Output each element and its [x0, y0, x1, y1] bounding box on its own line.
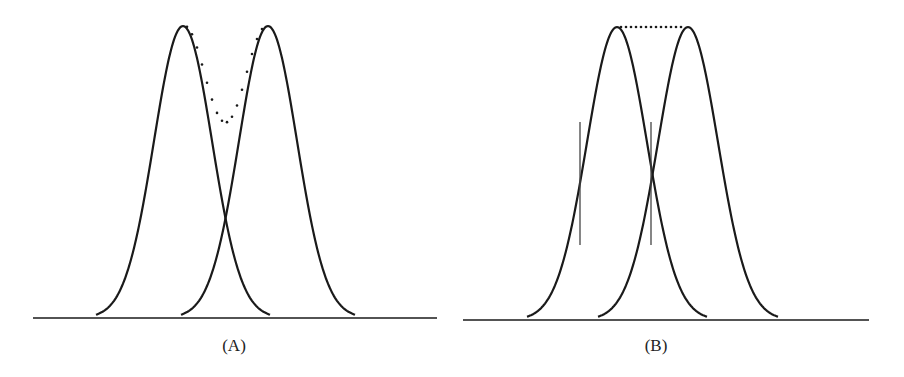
- panel-b-sum-dot: [675, 26, 678, 29]
- panel-a-sum-dot: [246, 70, 249, 73]
- panel-b-sum-dot: [650, 26, 653, 29]
- panel-a-sum-dot: [251, 53, 254, 56]
- panel-b-sum-dot: [680, 26, 683, 29]
- figure-canvas: [0, 0, 904, 377]
- panel-b-sum-dot: [645, 26, 648, 29]
- panel-a-sum-dot: [211, 98, 214, 101]
- panel-b-peak-1: [527, 27, 707, 317]
- panel-b-sum-dot: [655, 26, 658, 29]
- panel-b-sum-dot: [665, 26, 668, 29]
- panel-a-sum-dot: [186, 26, 189, 29]
- panel-b-sum-dot: [625, 26, 628, 29]
- panel-b-sum-dot: [670, 26, 673, 29]
- panel-a-label: (A): [222, 336, 246, 356]
- panel-b-sum-dot: [620, 26, 623, 29]
- panel-a-sum-dot: [261, 28, 264, 31]
- panel-a-sum-dot: [221, 119, 224, 122]
- panel-b-peak-2: [598, 27, 778, 317]
- panel-a-peak-2: [181, 26, 355, 315]
- panel-a-sum-dot: [201, 63, 204, 66]
- panel-a-sum-dot: [196, 46, 199, 49]
- panel-a-sum-dot: [231, 115, 234, 118]
- panel-b-sum-dot: [660, 26, 663, 29]
- panel-a-peak-1: [96, 26, 270, 315]
- panel-a-sum-dot: [226, 121, 229, 124]
- panel-a-sum-dot: [256, 38, 259, 41]
- panel-a-sum-dot: [216, 112, 219, 115]
- panel-a-sum-dot: [236, 104, 239, 107]
- panel-b-sum-dot: [630, 26, 633, 29]
- panel-a-sum-dot: [206, 81, 209, 84]
- panel-b-sum-dot: [640, 26, 643, 29]
- panel-b-sum-dot: [635, 26, 638, 29]
- panel-b-label: (B): [645, 336, 668, 356]
- panel-a-sum-dot: [191, 33, 194, 36]
- panel-a-sum-dot: [241, 88, 244, 91]
